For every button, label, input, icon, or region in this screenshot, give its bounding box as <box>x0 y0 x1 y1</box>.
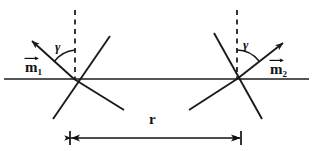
moment-label-m2-char: m <box>270 62 283 77</box>
angle-label-gamma-right: γ <box>243 38 248 51</box>
angle-arc-right <box>237 50 259 61</box>
diagram-canvas: γ γ m 1 m 2 r <box>0 0 313 151</box>
distance-label-r: r <box>149 112 156 127</box>
axis-line-right-a <box>214 33 262 119</box>
axis-line-left-b <box>74 79 124 110</box>
moment-label-m2-subscript: 2 <box>283 69 288 79</box>
moment-label-m1-body: m <box>25 60 38 75</box>
axis-line-right-b <box>189 79 237 110</box>
moment-label-m2-body: m <box>270 62 283 77</box>
diagram-svg <box>0 0 313 151</box>
axis-line-left-a <box>53 36 110 119</box>
moment-label-m1-char: m <box>25 60 38 75</box>
moment-label-m2: m 2 <box>270 62 287 79</box>
moment-label-m1: m 1 <box>25 60 42 77</box>
angle-label-gamma-left: γ <box>55 40 60 53</box>
moment-label-m1-subscript: 1 <box>38 67 43 77</box>
